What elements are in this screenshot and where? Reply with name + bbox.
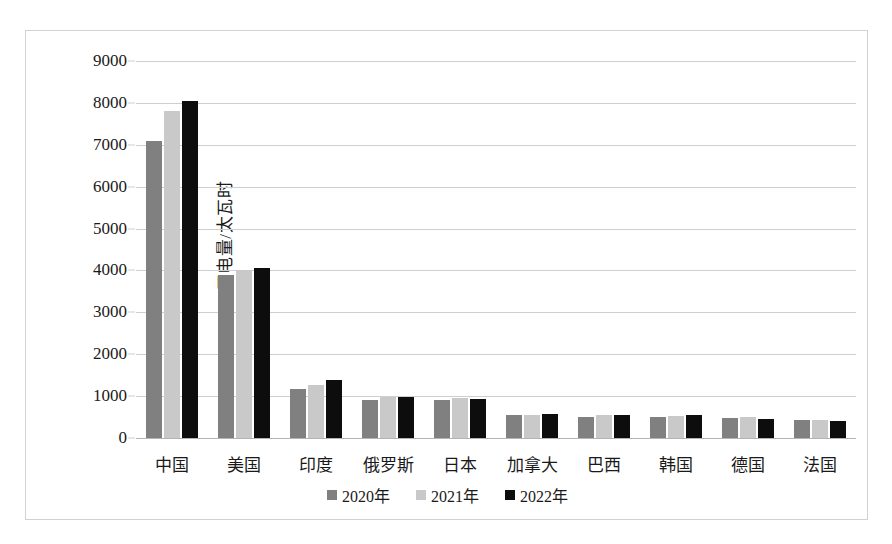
chart-legend: 2020年2021年2022年 (26, 483, 869, 507)
x-axis-category-label: 印度 (299, 451, 333, 476)
y-axis-tick-label: 6000 (93, 177, 127, 197)
y-tick-mark-5000 (128, 228, 135, 229)
bar-group: 印度 (280, 61, 352, 438)
chart-plot-wrapper: 用电量/太瓦时 90008000700060005000400030002000… (26, 31, 869, 521)
x-axis-category-label: 韩国 (659, 451, 693, 476)
bar-俄罗斯-2022年[interactable] (398, 397, 414, 438)
legend-swatch-icon (416, 490, 426, 500)
y-axis-tick-label: 3000 (93, 302, 127, 322)
y-tick-mark-4000 (128, 270, 135, 271)
bar-美国-2022年[interactable] (254, 268, 270, 438)
legend-swatch-icon (505, 490, 515, 500)
y-tick-mark-9000 (128, 61, 135, 62)
bar-巴西-2022年[interactable] (614, 415, 630, 438)
y-tick-mark-2000 (128, 354, 135, 355)
bar-加拿大-2022年[interactable] (542, 414, 558, 438)
y-tick-mark-6000 (128, 186, 135, 187)
y-tick-mark-1000 (128, 396, 135, 397)
y-axis-tick-label: 5000 (93, 219, 127, 239)
gridline-0: 0 (136, 438, 856, 439)
bar-日本-2022年[interactable] (470, 399, 486, 438)
x-axis-category-label: 中国 (155, 451, 189, 476)
y-axis-tick-label: 2000 (93, 344, 127, 364)
bar-group: 巴西 (568, 61, 640, 438)
y-tick-mark-7000 (128, 144, 135, 145)
bar-法国-2022年[interactable] (830, 421, 846, 438)
bar-俄罗斯-2020年[interactable] (362, 400, 378, 438)
y-axis-tick-label: 9000 (93, 51, 127, 71)
bar-韩国-2022年[interactable] (686, 415, 702, 438)
bar-加拿大-2020年[interactable] (506, 415, 522, 438)
x-axis-category-label: 日本 (443, 451, 477, 476)
y-tick-mark-3000 (128, 312, 135, 313)
bar-group: 美国 (208, 61, 280, 438)
x-axis-category-label: 加拿大 (507, 451, 558, 476)
bar-中国-2021年[interactable] (164, 111, 180, 438)
y-axis-tick-label: 0 (119, 428, 128, 448)
bar-巴西-2021年[interactable] (596, 415, 612, 438)
bar-印度-2020年[interactable] (290, 389, 306, 438)
y-axis-title: 用电量/太瓦时 (36, 0, 62, 31)
bar-group: 韩国 (640, 61, 712, 438)
bar-group: 加拿大 (496, 61, 568, 438)
legend-item-2022年[interactable]: 2022年 (505, 483, 568, 507)
y-tick-mark-0 (128, 438, 135, 439)
legend-label: 2020年 (342, 483, 390, 507)
bar-法国-2020年[interactable] (794, 420, 810, 438)
bar-印度-2021年[interactable] (308, 385, 324, 438)
bar-中国-2022年[interactable] (182, 101, 198, 438)
bar-日本-2021年[interactable] (452, 398, 468, 438)
bar-德国-2020年[interactable] (722, 418, 738, 438)
y-axis-tick-label: 8000 (93, 93, 127, 113)
bar-group: 俄罗斯 (352, 61, 424, 438)
x-axis-category-label: 美国 (227, 451, 261, 476)
bar-日本-2020年[interactable] (434, 400, 450, 438)
y-axis-tick-label: 4000 (93, 260, 127, 280)
legend-swatch-icon (327, 490, 337, 500)
bar-法国-2021年[interactable] (812, 420, 828, 438)
bar-俄罗斯-2021年[interactable] (380, 397, 396, 438)
legend-item-2020年[interactable]: 2020年 (327, 483, 390, 507)
x-axis-category-label: 俄罗斯 (363, 451, 414, 476)
bar-巴西-2020年[interactable] (578, 417, 594, 438)
bar-groups: 中国美国印度俄罗斯日本加拿大巴西韩国德国法国 (136, 61, 856, 438)
y-tick-mark-8000 (128, 102, 135, 103)
chart-frame: 用电量/太瓦时 90008000700060005000400030002000… (25, 30, 868, 520)
bar-group: 德国 (712, 61, 784, 438)
x-axis-category-label: 法国 (803, 451, 837, 476)
bar-group: 法国 (784, 61, 856, 438)
plot-area: 9000800070006000500040003000200010000 中国… (136, 61, 856, 438)
bar-加拿大-2021年[interactable] (524, 415, 540, 438)
y-axis-tick-label: 7000 (93, 135, 127, 155)
bar-group: 日本 (424, 61, 496, 438)
bar-印度-2022年[interactable] (326, 380, 342, 438)
legend-label: 2021年 (431, 483, 479, 507)
bar-德国-2021年[interactable] (740, 417, 756, 438)
bar-中国-2020年[interactable] (146, 141, 162, 438)
bar-美国-2020年[interactable] (218, 275, 234, 438)
legend-label: 2022年 (520, 483, 568, 507)
legend-item-2021年[interactable]: 2021年 (416, 483, 479, 507)
bar-group: 中国 (136, 61, 208, 438)
y-axis-tick-label: 1000 (93, 386, 127, 406)
bar-美国-2021年[interactable] (236, 270, 252, 438)
bar-韩国-2020年[interactable] (650, 417, 666, 438)
bar-韩国-2021年[interactable] (668, 416, 684, 438)
bar-德国-2022年[interactable] (758, 419, 774, 438)
x-axis-category-label: 德国 (731, 451, 765, 476)
x-axis-category-label: 巴西 (587, 451, 621, 476)
